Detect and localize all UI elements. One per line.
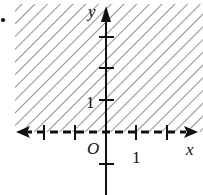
x-tick-label-1: 1 [132,148,141,167]
origin-label: O [87,139,99,158]
x-axis-label: x [185,140,194,159]
coordinate-plane: • y x O 1 1 [0,0,203,195]
bullet: • [0,11,6,30]
y-axis-label: y [86,2,96,21]
y-tick-label-1: 1 [86,93,95,112]
